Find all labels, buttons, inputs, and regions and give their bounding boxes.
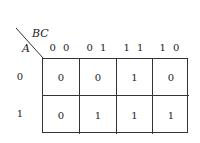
column-header-10: 1 0 <box>152 43 189 53</box>
kmap-cell-a0-bc01: 0 <box>80 59 117 96</box>
column-variable-label: BC <box>32 28 49 39</box>
kmap-cell-a0-bc11: 1 <box>117 59 153 96</box>
karnaugh-map-grid: 0 0 1 0 0 1 1 1 <box>42 58 188 133</box>
column-header-11: 1 1 <box>116 43 153 53</box>
kmap-cell-a1-bc00: 0 <box>43 96 80 134</box>
kmap-cell-a1-bc11: 1 <box>117 96 153 134</box>
kmap-cell-a0-bc10: 0 <box>153 59 189 96</box>
row-header-0: 0 <box>14 72 26 82</box>
kmap-cell-a1-bc10: 1 <box>153 96 189 134</box>
row-variable-label: A <box>22 43 30 54</box>
kmap-cell-a1-bc01: 1 <box>80 96 117 134</box>
row-header-1: 1 <box>14 109 26 119</box>
kmap-cell-a0-bc00: 0 <box>43 59 80 96</box>
column-header-00: 0 0 <box>42 43 79 53</box>
column-header-01: 0 1 <box>79 43 116 53</box>
